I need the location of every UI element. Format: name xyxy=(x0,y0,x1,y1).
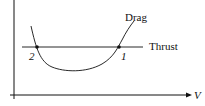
x-axis-arrow-icon xyxy=(186,93,192,98)
x-axis-label: V xyxy=(194,89,202,101)
point-2-marker xyxy=(35,45,39,49)
point-1-label: 1 xyxy=(121,50,127,62)
point-2-label: 2 xyxy=(29,50,35,62)
point-1-marker xyxy=(117,45,121,49)
thrust-drag-diagram: V Thrust Drag 2 1 xyxy=(0,0,205,106)
thrust-label: Thrust xyxy=(149,40,178,52)
drag-label: Drag xyxy=(125,11,147,23)
